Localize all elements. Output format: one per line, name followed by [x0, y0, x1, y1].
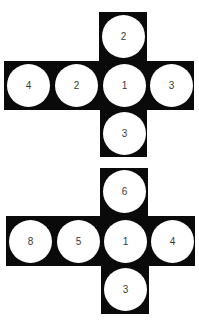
net-2-face-right: 4 [151, 220, 194, 263]
face-label: 8 [28, 236, 34, 247]
net-2-face-left-outer: 8 [9, 220, 52, 263]
face-label: 3 [123, 284, 129, 295]
net-2-face-center: 1 [104, 220, 147, 263]
face-label: 5 [76, 236, 82, 247]
face-label: 6 [122, 186, 128, 197]
cube-net-2: 6 8 5 1 4 3 [0, 0, 199, 321]
net-2-face-left-inner: 5 [57, 220, 100, 263]
net-2-face-top: 6 [103, 170, 146, 213]
face-label: 4 [170, 236, 176, 247]
net-2-face-bottom: 3 [104, 268, 147, 311]
face-label: 1 [123, 236, 129, 247]
